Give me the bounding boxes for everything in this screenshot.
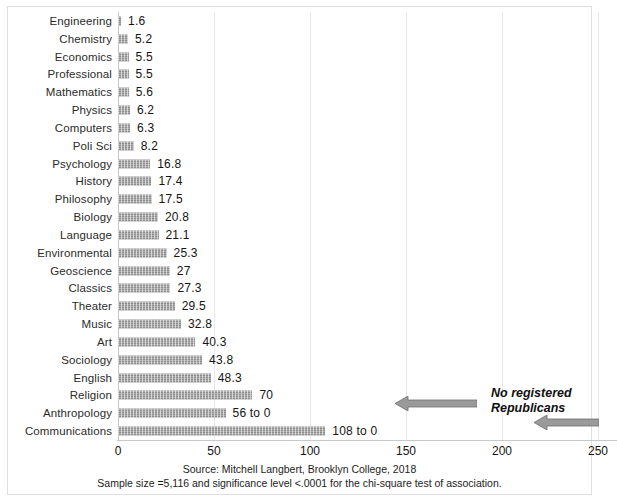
- bar: [118, 195, 152, 204]
- bar-row: English48.3: [118, 369, 598, 387]
- bar: [118, 70, 129, 79]
- bar: [118, 427, 325, 436]
- category-label: Biology: [74, 211, 112, 223]
- bar: [118, 373, 211, 382]
- bar-value-label: 8.2: [141, 139, 158, 153]
- plot-area: Engineering1.6Chemistry5.2Economics5.5Pr…: [118, 12, 598, 440]
- category-label: Professional: [48, 68, 112, 80]
- category-label: Physics: [72, 104, 112, 116]
- category-label: Language: [60, 229, 112, 241]
- category-label: Poli Sci: [73, 140, 112, 152]
- bar-value-label: 1.6: [128, 14, 145, 28]
- category-label: Sociology: [61, 354, 112, 366]
- bar-row: Chemistry5.2: [118, 30, 598, 48]
- category-label: Engineering: [50, 15, 112, 27]
- bar-value-label: 29.5: [182, 299, 206, 313]
- bar-row: Poli Sci8.2: [118, 137, 598, 155]
- bar-value-label: 17.4: [158, 174, 182, 188]
- bar-row: Classics27.3: [118, 280, 598, 298]
- source-line: Source: Mitchell Langbert, Brooklyn Coll…: [0, 462, 599, 476]
- bar-value-label: 40.3: [202, 335, 226, 349]
- bar-value-label: 6.2: [137, 103, 154, 117]
- bar-row: Biology20.8: [118, 208, 598, 226]
- category-label: Economics: [55, 51, 112, 63]
- bar-row: Physics6.2: [118, 101, 598, 119]
- bar-value-label: 32.8: [188, 317, 212, 331]
- bar-row: History17.4: [118, 173, 598, 191]
- chart-footer: Source: Mitchell Langbert, Brooklyn Coll…: [0, 462, 599, 490]
- bar-value-label: 17.5: [159, 192, 183, 206]
- bar-row: Computers6.3: [118, 119, 598, 137]
- left-pointing-arrow-icon: [534, 415, 599, 430]
- bar: [118, 213, 158, 222]
- bar-row: Psychology16.8: [118, 155, 598, 173]
- bar-value-label: 5.5: [136, 67, 153, 81]
- bar-value-label: 48.3: [218, 371, 242, 385]
- x-tick-label: 200: [492, 444, 512, 458]
- bar-row: Environmental25.3: [118, 244, 598, 262]
- bar: [118, 52, 129, 61]
- x-axis-tick-labels: 050100150200250: [118, 444, 598, 464]
- bar-value-label: 5.5: [136, 50, 153, 64]
- bar-row: Music32.8: [118, 315, 598, 333]
- bar-row: Theater29.5: [118, 297, 598, 315]
- bar-row: Mathematics5.6: [118, 83, 598, 101]
- category-label: History: [76, 175, 112, 187]
- x-axis-baseline: [117, 440, 617, 441]
- x-tick-label: 50: [207, 444, 220, 458]
- bar-row: Professional5.5: [118, 66, 598, 84]
- x-tick-label: 250: [588, 444, 608, 458]
- bar-value-label: 5.2: [135, 32, 152, 46]
- bar: [118, 159, 150, 168]
- category-label: Art: [97, 336, 112, 348]
- bar-row: Art40.3: [118, 333, 598, 351]
- category-label: Theater: [72, 300, 112, 312]
- category-label: Environmental: [37, 247, 112, 259]
- category-label: Anthropology: [43, 407, 112, 419]
- annotation-line-1: No registered: [491, 386, 572, 401]
- bar-row: Sociology43.8: [118, 351, 598, 369]
- bar: [118, 16, 121, 25]
- bar: [118, 302, 175, 311]
- bar: [118, 409, 226, 418]
- bar: [118, 248, 167, 257]
- left-pointing-arrow-icon: [395, 396, 477, 411]
- bar-value-label: 56 to 0: [233, 406, 271, 420]
- category-label: Music: [81, 318, 112, 330]
- bar-value-label: 27.3: [177, 281, 201, 295]
- bar: [118, 284, 170, 293]
- bar-value-label: 70: [259, 388, 273, 402]
- annotation-line-2: Republicans: [491, 401, 565, 416]
- bar: [118, 123, 130, 132]
- bar-value-label: 16.8: [157, 157, 181, 171]
- bar: [118, 88, 129, 97]
- bar-value-label: 27: [177, 264, 191, 278]
- bar-row: Geoscience27: [118, 262, 598, 280]
- x-tick-label: 0: [115, 444, 122, 458]
- bar-value-label: 43.8: [209, 353, 233, 367]
- category-label: Religion: [70, 389, 112, 401]
- bar-row: Economics5.5: [118, 48, 598, 66]
- category-label: Chemistry: [59, 33, 112, 45]
- x-tick-label: 100: [300, 444, 320, 458]
- bar: [118, 141, 134, 150]
- bar: [118, 391, 252, 400]
- category-label: Computers: [55, 122, 112, 134]
- category-label: Geoscience: [50, 265, 112, 277]
- bar: [118, 320, 181, 329]
- bar-row: Engineering1.6: [118, 12, 598, 30]
- bar-value-label: 6.3: [137, 121, 154, 135]
- bar-value-label: 25.3: [174, 246, 198, 260]
- bar: [118, 355, 202, 364]
- bar-value-label: 21.1: [166, 228, 190, 242]
- bar-value-label: 108 to 0: [332, 424, 377, 438]
- bar-value-label: 5.6: [136, 85, 153, 99]
- bar-value-label: 20.8: [165, 210, 189, 224]
- bar: [118, 337, 195, 346]
- bar: [118, 106, 130, 115]
- category-label: Philosophy: [55, 193, 112, 205]
- bar: [118, 266, 170, 275]
- bar-row: Communications108 to 0: [118, 422, 598, 440]
- sample-note-line: Sample size =5,116 and significance leve…: [0, 476, 599, 490]
